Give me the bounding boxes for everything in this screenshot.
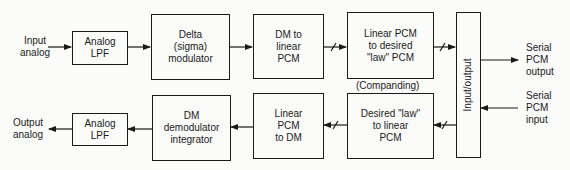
- block-label: Input/output: [463, 59, 475, 112]
- block-label: Linear PCM to DM: [275, 108, 303, 144]
- law-to-linear-pcm-block: Desired "law" to linear PCM: [347, 93, 434, 159]
- block-label: Linear PCM to desired "law" PCM: [364, 28, 417, 64]
- dm-demodulator-integrator-block: DM demodulator integrator: [152, 95, 231, 161]
- block-label: DM to linear PCM: [275, 29, 302, 65]
- linear-to-law-pcm-block: Linear PCM to desired "law" PCM: [347, 12, 434, 79]
- block-label: Analog LPF: [84, 118, 115, 142]
- delta-sigma-modulator-block: Delta (sigma) modulator: [151, 14, 230, 80]
- analog-lpf-input-block: Analog LPF: [72, 31, 128, 65]
- companding-annotation: (Companding): [356, 80, 419, 92]
- block-label: Analog LPF: [84, 36, 115, 60]
- dm-to-linear-pcm-block: DM to linear PCM: [253, 14, 324, 79]
- block-label: Delta (sigma) modulator: [168, 29, 212, 65]
- analog-lpf-output-block: Analog LPF: [72, 113, 128, 146]
- output-analog-label: Output analog: [13, 117, 43, 141]
- serial-pcm-output-label: Serial PCM output: [526, 42, 554, 78]
- serial-pcm-input-label: Serial PCM input: [526, 90, 552, 126]
- input-output-block: Input/output: [456, 12, 481, 158]
- block-label: DM demodulator integrator: [164, 110, 220, 146]
- block-label: Desired "law" to linear PCM: [361, 108, 420, 144]
- block-diagram: Input analog Output analog Serial PCM ou…: [0, 0, 570, 170]
- linear-pcm-to-dm-block: Linear PCM to DM: [253, 93, 324, 159]
- input-analog-label: Input analog: [20, 35, 50, 59]
